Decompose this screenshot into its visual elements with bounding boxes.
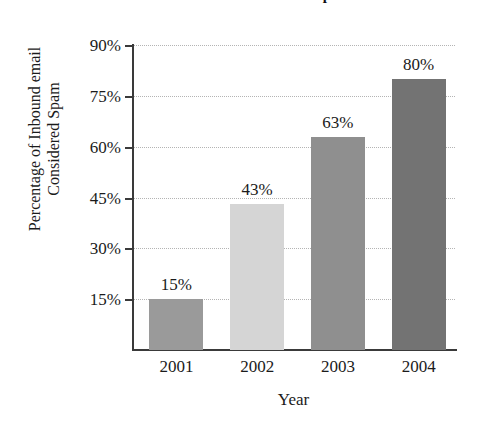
x-axis-tick-label: 2002	[240, 357, 274, 377]
y-axis-tick-label: 90%	[90, 36, 121, 56]
y-axis-tick	[125, 45, 134, 47]
y-axis-tick-label: 30%	[90, 239, 121, 259]
bar-value-label: 15%	[161, 275, 192, 295]
bar-value-label: 80%	[403, 55, 434, 75]
bar-value-label: 43%	[242, 180, 273, 200]
y-axis-tick	[125, 147, 134, 149]
x-axis-tick-label: 2004	[402, 357, 436, 377]
y-axis-title-line-2: Considered Spam	[44, 9, 63, 269]
chart-title: email in the U.S. Considered Spam	[0, 0, 477, 4]
y-axis-tick	[125, 198, 134, 200]
bar-2001: 15%	[149, 299, 203, 350]
y-axis-title: Percentage of Inbound email Considered S…	[25, 9, 63, 269]
y-axis-title-line-1: Percentage of Inbound email	[25, 9, 44, 269]
bar-2004: 80%	[392, 79, 446, 350]
x-axis-tick-label: 2001	[159, 357, 193, 377]
bar-2002: 43%	[230, 204, 284, 350]
gridline: 90%	[132, 45, 455, 46]
bar-value-label: 63%	[322, 113, 353, 133]
y-axis-tick	[125, 96, 134, 98]
y-axis-tick-label: 75%	[90, 87, 121, 107]
bar-2003: 63%	[311, 137, 365, 351]
y-axis-tick	[125, 248, 134, 250]
y-axis-tick-label: 60%	[90, 138, 121, 158]
y-axis-tick-label: 45%	[90, 189, 121, 209]
y-axis-tick-label: 15%	[90, 290, 121, 310]
x-axis-tick-label: 2003	[321, 357, 355, 377]
y-axis-tick	[125, 299, 134, 301]
plot-area: 15%30%45%60%75%90% 15%43%63%80%	[132, 45, 455, 350]
x-axis-title: Year	[132, 390, 455, 410]
